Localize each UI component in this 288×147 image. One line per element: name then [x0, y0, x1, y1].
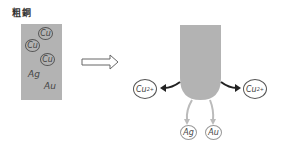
ag-down-arrow-icon — [187, 100, 192, 120]
electrode-body — [180, 25, 221, 100]
process-arrow-icon — [82, 55, 118, 69]
cu2-ion-right: Cu2+ — [243, 79, 267, 99]
au-down-arrow-icon — [210, 100, 213, 120]
right-curve-arrow-icon — [221, 82, 237, 88]
diagram-graphics — [0, 0, 288, 147]
cu2-ion-left: Cu2+ — [133, 79, 157, 99]
au-sludge: Au — [205, 125, 222, 140]
left-curve-arrow-icon — [164, 82, 180, 88]
ag-sludge: Ag — [180, 125, 197, 140]
